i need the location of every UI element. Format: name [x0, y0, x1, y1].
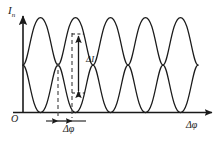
delta-i-label: ΔI — [86, 55, 94, 64]
delta-phi-label: Δφ — [63, 124, 74, 134]
y-axis-label: In — [8, 5, 15, 19]
origin-label: O — [11, 114, 18, 124]
x-axis-label: Δφ — [186, 120, 197, 130]
intensity-curve-a — [23, 18, 198, 113]
intensity-curve-b — [23, 18, 198, 113]
interference-intensity-figure: In O Δφ ΔI Δφ — [0, 0, 220, 142]
y-axis-label-sub: n — [12, 11, 16, 19]
